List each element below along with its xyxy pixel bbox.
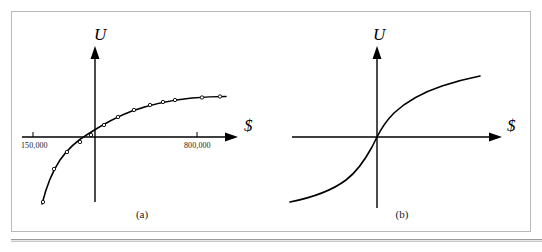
plot-a <box>12 12 272 212</box>
y-axis-a <box>91 46 100 202</box>
utility-curve-b <box>290 76 480 202</box>
panel-b: U $ (b) <box>272 12 532 233</box>
panel-a: U $ 150,000 800,000 (a) <box>12 12 272 233</box>
y-axis-b <box>373 46 382 208</box>
figure-root: U $ 150,000 800,000 (a) <box>0 0 542 252</box>
x-axis-b <box>292 133 502 142</box>
bottom-separator-rule <box>11 239 542 242</box>
plot-b <box>272 12 532 212</box>
x-axis-label-a: $ <box>244 117 253 134</box>
x-axis-label-b: $ <box>507 117 516 134</box>
x-axis-ticks-a <box>33 132 197 137</box>
panel-caption-a: (a) <box>12 208 272 220</box>
utility-curve-a <box>42 97 226 205</box>
x-tick-label-800000: 800,000 <box>184 141 211 150</box>
y-axis-label-a: U <box>94 26 106 43</box>
y-axis-label-b: U <box>373 26 385 43</box>
x-tick-label-150000: 150,000 <box>21 141 48 150</box>
panel-caption-b: (b) <box>272 208 532 220</box>
figure-frame: U $ 150,000 800,000 (a) <box>11 11 531 232</box>
